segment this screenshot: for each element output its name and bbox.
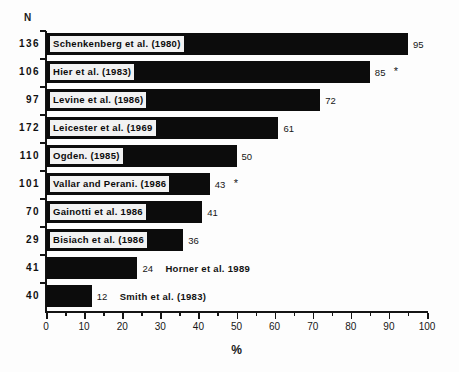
n-value: 97 [0, 89, 40, 111]
bar-value-label: 24 [142, 262, 153, 276]
x-axis-tick-label: 40 [178, 321, 218, 332]
bar-row: Smith et al. (1983)12 [46, 285, 459, 307]
bar-study-label: Smith et al. (1983) [120, 289, 206, 304]
bar-study-label: Leicester et al. (1969 [50, 120, 156, 136]
x-axis-tick-label: 60 [255, 321, 295, 332]
y-axis-tick [40, 86, 46, 88]
n-value: 106 [0, 61, 40, 83]
x-axis-minor-tick [408, 313, 410, 316]
bar-value-label: 36 [188, 234, 199, 248]
x-axis-major-tick [351, 313, 353, 319]
x-axis-title: % [207, 343, 267, 357]
n-value: 29 [0, 229, 40, 251]
bar-row: Gainotti et al. 198641 [46, 201, 459, 223]
n-value: 110 [0, 145, 40, 167]
y-axis-tick [40, 170, 46, 172]
bar [46, 257, 137, 279]
bar-row: Ogden. (1985)50 [46, 145, 459, 167]
bar-row: Schenkenberg et al. (1980)95 [46, 33, 459, 55]
n-column-header: N [24, 12, 32, 23]
x-axis-tick-label: 80 [331, 321, 371, 332]
bar-value-label: 61 [283, 122, 294, 136]
bar [46, 285, 92, 307]
x-axis-major-tick [160, 313, 162, 319]
y-axis-tick [40, 198, 46, 200]
x-axis-tick-label: 0 [26, 321, 66, 332]
y-axis-tick [40, 254, 46, 256]
x-axis-major-tick [122, 313, 124, 319]
bar-row: Hier et al. (1983)85* [46, 61, 459, 83]
y-axis-tick [40, 226, 46, 228]
y-axis-tick [40, 142, 46, 144]
y-axis-tick [40, 282, 46, 284]
bar-value-label: 12 [97, 290, 108, 304]
bar-row: Leicester et al. (196961 [46, 117, 459, 139]
x-axis-minor-tick [256, 313, 258, 316]
x-axis-tick-label: 90 [369, 321, 409, 332]
n-value: 40 [0, 285, 40, 307]
x-axis-major-tick [198, 313, 200, 319]
bar-study-label: Gainotti et al. 1986 [50, 204, 146, 220]
x-axis-minor-tick [370, 313, 372, 316]
bar-row: Vallar and Perani. (198643* [46, 173, 459, 195]
x-axis-major-tick [427, 313, 429, 319]
x-axis-major-tick [275, 313, 277, 319]
bar-study-label: Ogden. (1985) [50, 148, 123, 164]
bar-row: Horner et al. 198924 [46, 257, 459, 279]
x-axis-major-tick [46, 313, 48, 319]
bar-row: Levine et al. (1986)72 [46, 89, 459, 111]
x-axis-tick-label: 100 [407, 321, 447, 332]
significance-asterisk: * [234, 176, 238, 190]
y-axis-tick [40, 114, 46, 116]
bar-value-label: 41 [207, 206, 218, 220]
x-axis-minor-tick [294, 313, 296, 316]
n-value: 70 [0, 201, 40, 223]
x-axis-major-tick [237, 313, 239, 319]
n-value: 172 [0, 117, 40, 139]
x-axis-minor-tick [103, 313, 105, 316]
bar-study-label: Bisiach et al. (1986 [50, 232, 147, 248]
x-axis-minor-tick [65, 313, 67, 316]
significance-asterisk: * [394, 64, 398, 78]
bar-row: Bisiach et al. (198636 [46, 229, 459, 251]
n-value: 41 [0, 257, 40, 279]
x-axis-major-tick [389, 313, 391, 319]
bar-value-label: 72 [325, 94, 336, 108]
x-axis-tick-label: 30 [140, 321, 180, 332]
bar-value-label: 50 [242, 150, 253, 164]
n-value: 136 [0, 33, 40, 55]
bar-value-label: 95 [413, 38, 424, 52]
bar-study-label: Schenkenberg et al. (1980) [50, 36, 184, 52]
x-axis-minor-tick [217, 313, 219, 316]
y-axis-tick [40, 58, 46, 60]
x-axis-tick-label: 10 [64, 321, 104, 332]
x-axis-tick-label: 20 [102, 321, 142, 332]
x-axis-tick-label: 70 [293, 321, 333, 332]
x-axis-minor-tick [179, 313, 181, 316]
x-axis-major-tick [313, 313, 315, 319]
bar-study-label: Horner et al. 1989 [165, 261, 250, 276]
bar-chart: N 136Schenkenberg et al. (1980)95106Hier… [0, 0, 459, 372]
x-axis-minor-tick [141, 313, 143, 316]
y-axis-tick [40, 30, 46, 32]
bar-study-label: Hier et al. (1983) [50, 64, 134, 80]
n-value: 101 [0, 173, 40, 195]
x-axis-major-tick [84, 313, 86, 319]
bar-study-label: Levine et al. (1986) [50, 92, 146, 108]
x-axis-tick-label: 50 [217, 321, 257, 332]
bar-value-label: 43 [215, 178, 226, 192]
bar-value-label: 85 [375, 66, 386, 80]
x-axis-minor-tick [332, 313, 334, 316]
bar-study-label: Vallar and Perani. (1986 [50, 176, 169, 192]
